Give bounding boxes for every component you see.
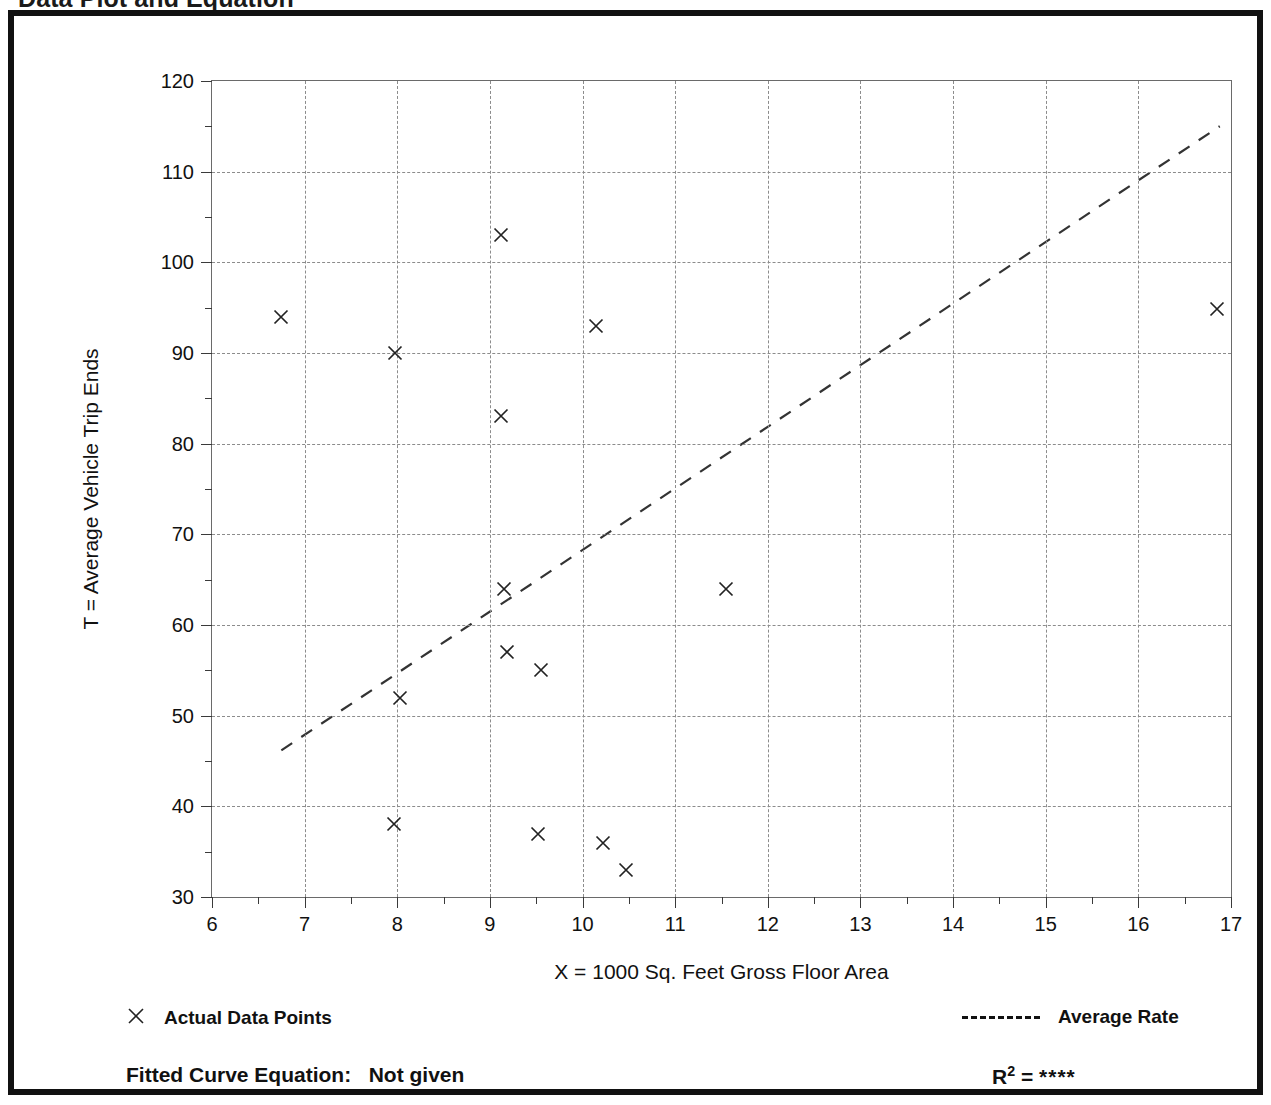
fitted-curve-equation-note: Fitted Curve Equation: Not given — [126, 1063, 464, 1087]
x-axis-tick-label: 13 — [849, 913, 871, 936]
y-axis-tick-label: 100 — [161, 251, 194, 274]
x-axis-minor-tick — [258, 897, 259, 904]
data-point-marker — [498, 643, 516, 661]
x-axis-title: X = 1000 Sq. Feet Gross Floor Area — [211, 960, 1232, 984]
y-axis-tick — [201, 353, 212, 354]
r-squared-value: **** — [1039, 1065, 1076, 1088]
x-axis-minor-tick — [629, 897, 630, 904]
legend-label-actual-data-points: Actual Data Points — [164, 1007, 332, 1029]
y-axis-tick-label: 70 — [172, 523, 194, 546]
data-point-marker — [386, 344, 404, 362]
y-axis-tick — [201, 806, 212, 807]
x-axis-tick — [305, 897, 306, 908]
data-point-marker — [391, 689, 409, 707]
x-axis-tick-label: 15 — [1035, 913, 1057, 936]
x-axis-minor-tick — [444, 897, 445, 904]
x-axis-tick — [212, 897, 213, 908]
x-axis-tick-label: 10 — [571, 913, 593, 936]
y-axis-tick-label: 110 — [162, 160, 194, 183]
x-axis-tick — [675, 897, 676, 908]
r-squared-equals: = — [1021, 1065, 1033, 1088]
y-axis-tick — [201, 444, 212, 445]
y-axis-minor-tick — [205, 852, 212, 853]
y-axis-minor-tick — [205, 761, 212, 762]
x-cross-marker-icon — [126, 1006, 146, 1030]
y-axis-tick — [201, 81, 212, 82]
y-axis-tick-label: 50 — [172, 704, 194, 727]
x-axis-tick-label: 14 — [942, 913, 964, 936]
data-point-marker — [492, 407, 510, 425]
chart-frame: T = Average Vehicle Trip Ends 6789101112… — [8, 10, 1263, 1095]
x-axis-minor-tick — [907, 897, 908, 904]
legend-label-average-rate: Average Rate — [1058, 1006, 1179, 1028]
dashed-line-swatch-icon — [962, 1016, 1040, 1019]
fitted-curve-equation-value: Not given — [369, 1063, 465, 1086]
legend-actual-data-points: Actual Data Points — [126, 1006, 332, 1030]
y-axis-tick-label: 90 — [172, 342, 194, 365]
x-axis-tick-label: 16 — [1127, 913, 1149, 936]
y-axis-tick — [201, 534, 212, 535]
y-axis-tick-label: 40 — [172, 795, 194, 818]
plot-area: 6789101112131415161730405060708090100110… — [211, 80, 1232, 898]
data-point-marker — [272, 308, 290, 326]
fitted-curve-equation-label: Fitted Curve Equation: — [126, 1063, 351, 1086]
x-axis-tick-label: 12 — [757, 913, 779, 936]
legend-average-rate: Average Rate — [962, 1006, 1179, 1028]
x-axis-tick — [953, 897, 954, 908]
y-axis-tick — [201, 262, 212, 263]
data-point-marker — [529, 825, 547, 843]
x-axis-tick-label: 7 — [299, 913, 310, 936]
x-axis-minor-tick — [1092, 897, 1093, 904]
y-axis-tick — [201, 897, 212, 898]
x-axis-tick — [583, 897, 584, 908]
y-axis-minor-tick — [205, 670, 212, 671]
x-axis-minor-tick — [722, 897, 723, 904]
x-axis-tick — [397, 897, 398, 908]
data-point-marker — [617, 861, 635, 879]
y-axis-tick — [201, 625, 212, 626]
y-axis-minor-tick — [205, 398, 212, 399]
y-axis-title-text: T = Average Vehicle Trip Ends — [79, 348, 103, 629]
y-axis-minor-tick — [205, 489, 212, 490]
x-axis-tick — [860, 897, 861, 908]
y-axis-tick — [201, 716, 212, 717]
x-axis-tick-label: 6 — [206, 913, 217, 936]
x-axis-tick-label: 9 — [484, 913, 495, 936]
data-point-marker — [717, 580, 735, 598]
x-axis-tick-label: 8 — [392, 913, 403, 936]
x-axis-minor-tick — [999, 897, 1000, 904]
x-axis-tick-label: 17 — [1220, 913, 1242, 936]
y-axis-minor-tick — [205, 126, 212, 127]
y-axis-tick-label: 120 — [161, 70, 194, 93]
x-axis-minor-tick — [814, 897, 815, 904]
x-axis-tick — [768, 897, 769, 908]
y-axis-minor-tick — [205, 217, 212, 218]
data-point-marker — [385, 815, 403, 833]
r-squared-note: R2 = **** — [992, 1063, 1076, 1089]
y-axis-title: T = Average Vehicle Trip Ends — [76, 80, 106, 898]
chart-page: Data Plot and Equation T = Average Vehic… — [0, 0, 1271, 1105]
x-axis-tick-label: 11 — [665, 913, 686, 936]
y-axis-minor-tick — [205, 308, 212, 309]
data-point-marker — [495, 580, 513, 598]
data-point-marker — [587, 317, 605, 335]
average-rate-trendline — [212, 81, 1231, 897]
data-point-marker — [492, 226, 510, 244]
average-rate-line — [281, 126, 1219, 750]
y-axis-tick — [201, 172, 212, 173]
x-axis-tick — [1231, 897, 1232, 908]
data-point-marker — [532, 661, 550, 679]
r-squared-label: R — [992, 1065, 1007, 1088]
x-axis-minor-tick — [351, 897, 352, 904]
x-axis-tick — [490, 897, 491, 908]
data-point-marker — [1208, 300, 1226, 318]
data-point-marker — [594, 834, 612, 852]
x-axis-minor-tick — [1185, 897, 1186, 904]
r-squared-exponent: 2 — [1007, 1063, 1015, 1079]
y-axis-tick-label: 80 — [172, 432, 194, 455]
y-axis-tick-label: 60 — [172, 614, 194, 637]
x-axis-tick — [1138, 897, 1139, 908]
y-axis-minor-tick — [205, 580, 212, 581]
x-axis-tick — [1046, 897, 1047, 908]
x-axis-minor-tick — [536, 897, 537, 904]
